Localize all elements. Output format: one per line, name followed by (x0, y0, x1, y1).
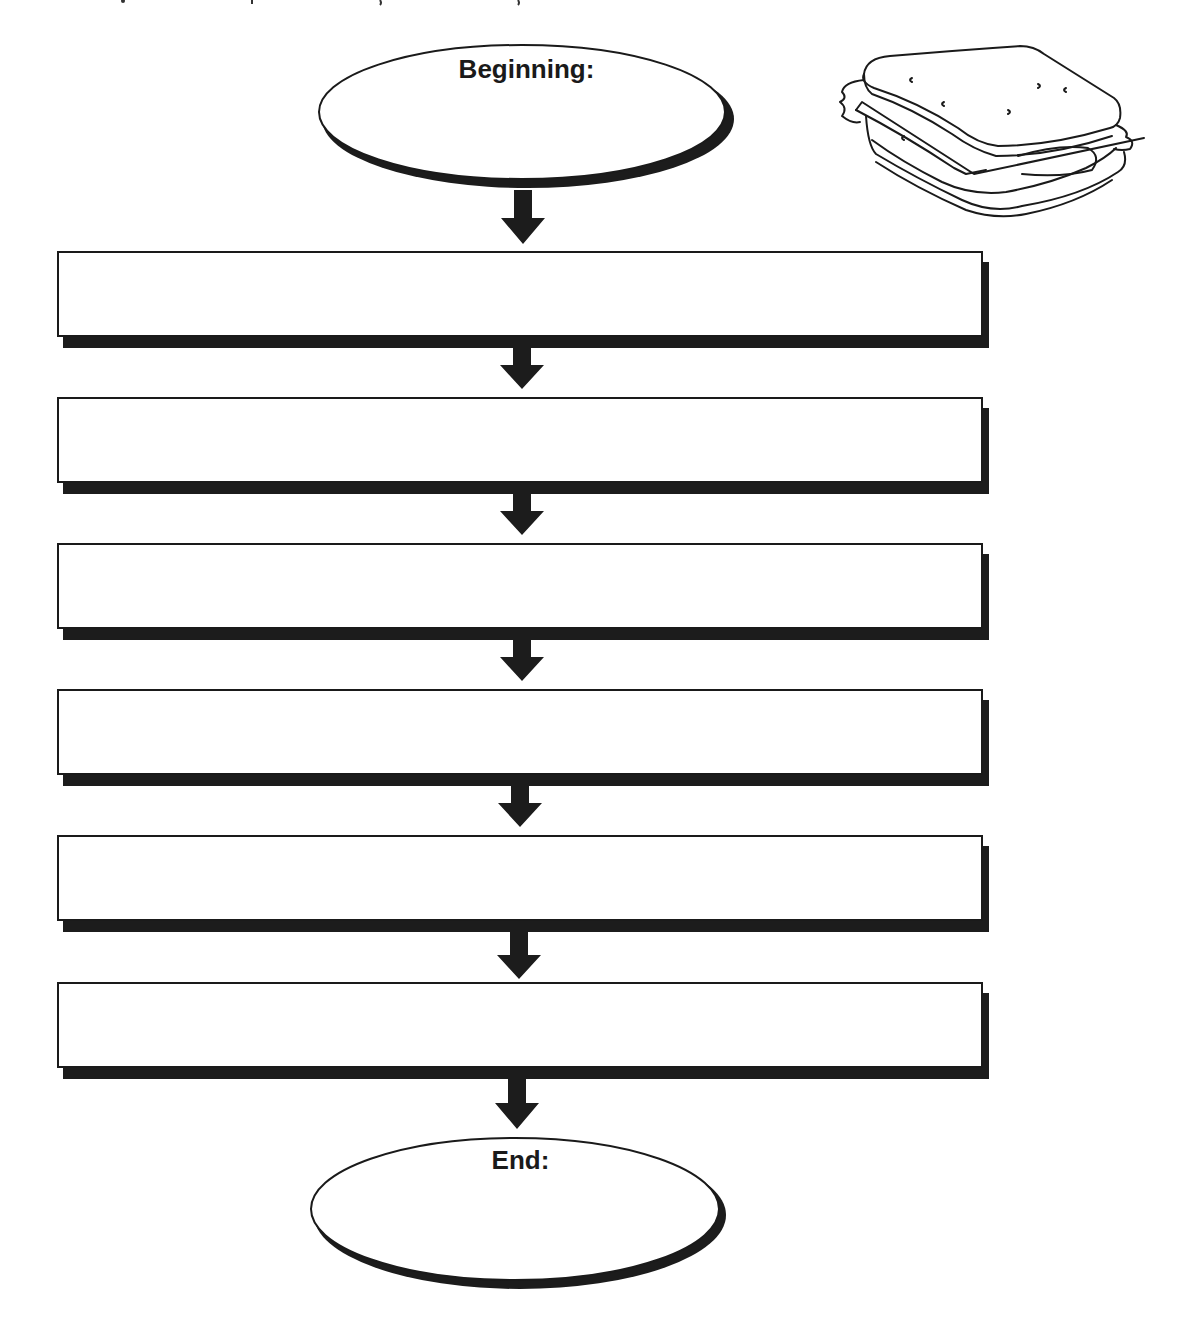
down-arrow-icon (498, 783, 544, 829)
down-arrow-icon (500, 637, 546, 683)
cut-off-title-marks (0, 0, 1199, 8)
down-arrow-icon (497, 929, 543, 981)
step-box-3[interactable] (57, 543, 983, 629)
beginning-label: Beginning: (314, 54, 739, 85)
step-box-1[interactable] (57, 251, 983, 337)
step-box-4[interactable] (57, 689, 983, 775)
end-label: End: (308, 1145, 733, 1176)
down-arrow-icon (500, 491, 546, 537)
step-box-6[interactable] (57, 982, 983, 1068)
down-arrow-icon (501, 190, 547, 246)
step-box-5[interactable] (57, 835, 983, 921)
sandwich-icon (826, 30, 1156, 230)
down-arrow-icon (500, 345, 546, 391)
end-oval: End: (308, 1133, 733, 1293)
beginning-oval: Beginning: (314, 40, 739, 190)
down-arrow-icon (495, 1075, 541, 1131)
step-box-2[interactable] (57, 397, 983, 483)
